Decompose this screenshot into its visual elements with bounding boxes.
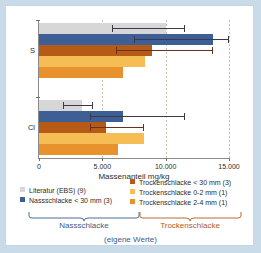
legend-label: Trockenschlacke 2-4 mm (1) (139, 199, 227, 206)
legend-label: Trockenschlacke < 30 mm (3) (139, 179, 231, 186)
bar (39, 133, 144, 144)
brace-label-eigene-werte: (eigene Werte) (6, 235, 255, 244)
chart-figure: Massenanteil mg/kg 05.00010.00015.000SCl… (5, 5, 254, 246)
x-tick-label: 0 (37, 163, 41, 170)
legend-label: Trockenschlacke 0-2 mm (1) (139, 189, 227, 196)
y-tick (36, 20, 40, 21)
legend-item-right-0[interactable]: Trockenschlacke < 30 mm (3) (130, 178, 231, 186)
x-tick (166, 158, 167, 161)
error-bar (63, 102, 93, 109)
x-tick-label: 5.000 (94, 163, 112, 170)
chart-legend: Literatur (EBS) (9)Nassschlacke < 30 mm … (20, 178, 245, 216)
error-bar (134, 36, 229, 43)
brace-trockenschlacke (139, 212, 242, 221)
x-tick-label: 10.000 (155, 163, 176, 170)
error-bar (90, 124, 144, 131)
legend-swatch-icon (20, 187, 25, 192)
y-axis-category-label: Cl (17, 123, 35, 132)
legend-item-left-1[interactable]: Nassschlacke < 30 mm (3) (20, 196, 112, 204)
legend-swatch-icon (130, 179, 135, 184)
y-tick (36, 97, 40, 98)
legend-swatch-icon (130, 189, 135, 194)
bar (39, 144, 118, 155)
legend-item-right-2[interactable]: Trockenschlacke 2-4 mm (1) (130, 198, 227, 206)
x-tick (39, 158, 40, 161)
error-bar (112, 25, 184, 32)
x-axis-line (38, 158, 229, 159)
brace-label-nassschlacke: Nassschlacke (59, 221, 108, 230)
gridline (229, 20, 230, 158)
bar (39, 56, 145, 67)
error-bar (116, 47, 212, 54)
legend-item-left-0[interactable]: Literatur (EBS) (9) (20, 186, 86, 194)
plot-area: Massenanteil mg/kg 05.00010.00015.000SCl (39, 20, 229, 158)
error-bar (90, 113, 185, 120)
legend-swatch-icon (130, 199, 135, 204)
x-tick (229, 158, 230, 161)
legend-label: Literatur (EBS) (9) (29, 187, 86, 194)
x-tick (102, 158, 103, 161)
legend-swatch-icon (20, 197, 25, 202)
legend-item-right-1[interactable]: Trockenschlacke 0-2 mm (1) (130, 188, 227, 196)
brace-label-trockenschlacke: Trockenschlacke (160, 221, 220, 230)
y-axis-category-label: S (17, 46, 35, 55)
legend-label: Nassschlacke < 30 mm (3) (29, 197, 112, 204)
brace-nassschlacke (28, 212, 140, 221)
bar (39, 67, 123, 78)
x-tick-label: 15.000 (218, 163, 239, 170)
